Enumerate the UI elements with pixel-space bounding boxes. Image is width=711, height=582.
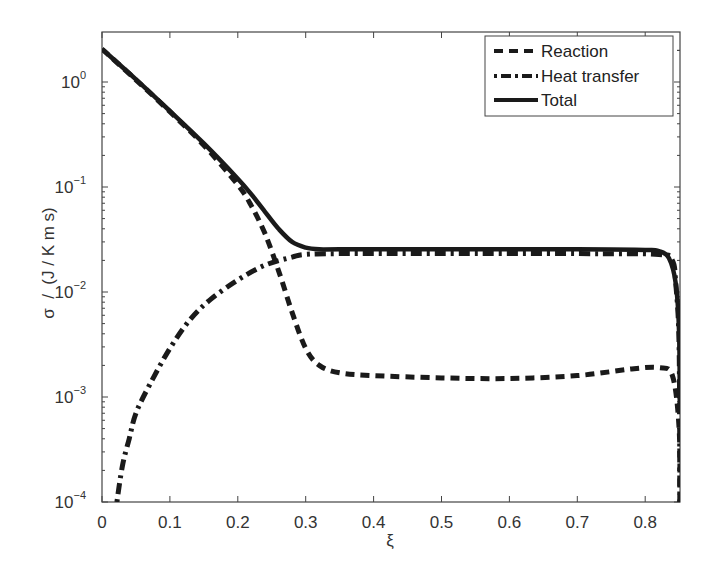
- y-tick-label: 10−1: [55, 174, 86, 197]
- y-tick-label: 100: [61, 69, 86, 92]
- x-tick-label: 0.8: [633, 513, 657, 532]
- x-tick-label: 0.1: [158, 513, 182, 532]
- x-tick-label: 0.7: [565, 513, 589, 532]
- y-tick-label: 10−4: [55, 489, 86, 512]
- y-axis-label: σ / (J / K m s): [39, 207, 58, 319]
- x-tick-labels: 00.10.20.30.40.50.60.70.8: [97, 513, 657, 532]
- y-tick-label: 10−3: [55, 384, 86, 407]
- y-tick-label: 10−2: [55, 279, 86, 302]
- legend-label-heat-transfer: Heat transfer: [541, 67, 640, 86]
- x-tick-label: 0.2: [226, 513, 250, 532]
- x-tick-label: 0.6: [498, 513, 522, 532]
- legend: Reaction Heat transfer Total: [485, 36, 673, 116]
- chart: 00.10.20.30.40.50.60.70.8 10010−110−210−…: [0, 0, 711, 582]
- y-tick-labels: 10010−110−210−310−4: [55, 69, 86, 512]
- legend-label-reaction: Reaction: [541, 42, 608, 61]
- x-tick-label: 0.4: [362, 513, 386, 532]
- x-axis-label: ξ: [386, 531, 394, 550]
- x-tick-label: 0.3: [294, 513, 318, 532]
- x-tick-label: 0.5: [430, 513, 454, 532]
- legend-label-total: Total: [541, 91, 577, 110]
- x-tick-label: 0: [97, 513, 106, 532]
